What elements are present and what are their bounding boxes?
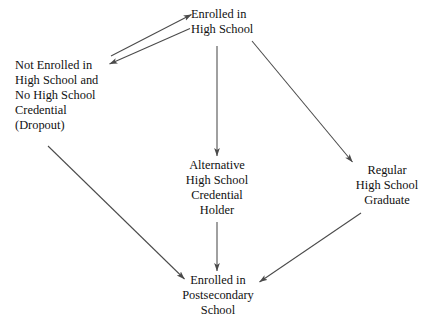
node-line: High School xyxy=(161,173,273,188)
node-line: No High School xyxy=(15,88,98,103)
node-line: Holder xyxy=(161,203,273,218)
node-line: (Dropout) xyxy=(15,118,98,133)
node-line: Enrolled in xyxy=(165,273,271,288)
node-line: Graduate xyxy=(347,193,427,208)
node-regular-graduate: Regular High School Graduate xyxy=(347,163,427,208)
node-line: Regular xyxy=(347,163,427,178)
node-line: Enrolled in xyxy=(191,7,253,22)
node-dropout: Not Enrolled in High School and No High … xyxy=(15,58,98,133)
node-enrolled-high-school: Enrolled in High School xyxy=(191,7,253,37)
node-line: Not Enrolled in xyxy=(15,58,98,73)
node-line: School xyxy=(165,303,271,318)
flow-diagram: Enrolled in High School Not Enrolled in … xyxy=(0,0,429,330)
edge-enrolled-to-dropout xyxy=(110,29,191,65)
node-line: High School and xyxy=(15,73,98,88)
edge-enrolled-to-regular xyxy=(252,41,353,162)
edge-regular-to-postsecondary xyxy=(260,213,362,282)
node-line: Alternative xyxy=(161,158,273,173)
node-line: Credential xyxy=(161,188,273,203)
node-line: High School xyxy=(347,178,427,193)
node-line: Credential xyxy=(15,103,98,118)
node-alternative-credential: Alternative High School Credential Holde… xyxy=(161,158,273,218)
edge-dropout-to-enrolled xyxy=(111,15,192,57)
node-postsecondary: Enrolled in Postsecondary School xyxy=(165,273,271,318)
node-line: High School xyxy=(191,22,253,37)
node-line: Postsecondary xyxy=(165,288,271,303)
